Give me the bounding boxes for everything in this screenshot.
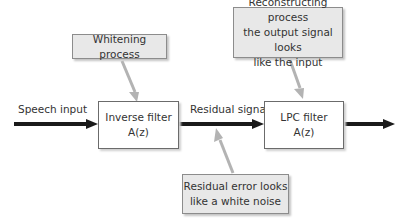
residual-error-callout: Residual error looks like a white noise <box>182 174 289 214</box>
lpc-filter-transfer-function: A(z) <box>280 125 327 140</box>
residual-signal-label: Residual signal <box>190 103 269 115</box>
whitening-process-callout: Whitening process <box>72 34 167 59</box>
residual-error-text: Residual error looks like a white noise <box>184 179 288 209</box>
whitening-process-text: Whitening process <box>73 32 166 62</box>
reconstructing-process-callout: Reconstructing process the output signal… <box>233 7 343 58</box>
inverse-filter-transfer-function: A(z) <box>105 125 171 140</box>
reconstructing-process-text: Reconstructing process the output signal… <box>234 0 342 70</box>
lpc-filter-title: LPC filter <box>280 110 327 125</box>
lpc-filter-block: LPC filter A(z) <box>264 101 344 149</box>
inverse-filter-block: Inverse filter A(z) <box>98 101 179 149</box>
speech-input-label: Speech input <box>18 103 87 115</box>
inverse-filter-title: Inverse filter <box>105 110 171 125</box>
